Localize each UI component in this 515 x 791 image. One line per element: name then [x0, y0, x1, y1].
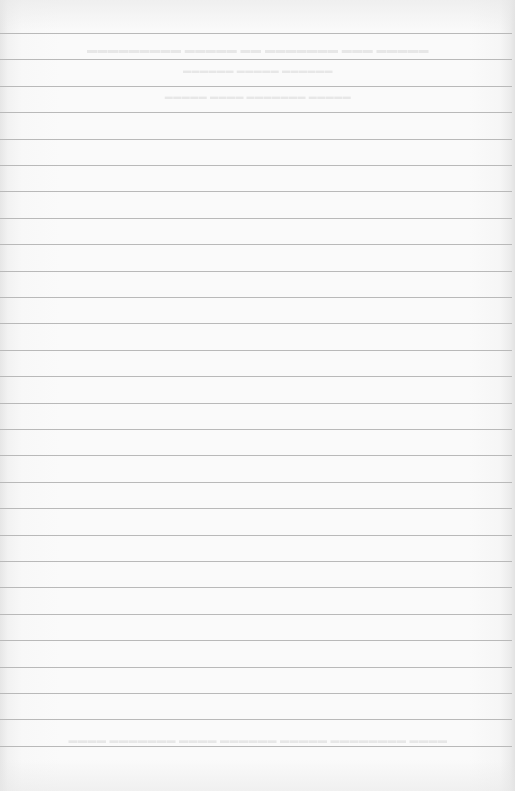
- rule-line: [0, 719, 512, 720]
- rule-line: [0, 746, 512, 747]
- rule-line: [0, 535, 512, 536]
- rule-line: [0, 455, 512, 456]
- rule-line: [0, 561, 512, 562]
- rule-line: [0, 508, 512, 509]
- rule-line: [0, 271, 512, 272]
- bleed-through-text-bottom: ▬▬▬▬ ▬▬▬▬▬▬▬▬ ▬▬▬▬▬ ▬▬▬▬▬▬ ▬▬▬▬ ▬▬▬▬▬▬▬ …: [0, 735, 515, 745]
- rule-line: [0, 403, 512, 404]
- rule-line: [0, 667, 512, 668]
- bleed-through-text-top-1: ▬▬▬▬▬ ▬▬▬ ▬▬▬▬▬▬▬ ▬▬ ▬▬▬▬▬ ▬▬▬▬▬▬▬▬▬: [0, 44, 515, 55]
- rule-line: [0, 614, 512, 615]
- bleed-through-text-top-2: ▬▬▬▬▬▬ ▬▬▬▬▬ ▬▬▬▬▬▬: [0, 66, 515, 75]
- rule-line: [0, 376, 512, 377]
- bleed-through-text-top-3: ▬▬▬▬▬ ▬▬▬▬▬▬▬ ▬▬▬▬ ▬▬▬▬▬: [0, 92, 515, 101]
- rule-line: [0, 139, 512, 140]
- notebook-page: ▬▬▬▬▬ ▬▬▬ ▬▬▬▬▬▬▬ ▬▬ ▬▬▬▬▬ ▬▬▬▬▬▬▬▬▬ ▬▬▬…: [0, 0, 515, 791]
- rule-line: [0, 587, 512, 588]
- rule-line: [0, 482, 512, 483]
- rule-line: [0, 429, 512, 430]
- rule-line: [0, 693, 512, 694]
- rule-line: [0, 244, 512, 245]
- rule-line: [0, 218, 512, 219]
- rule-line: [0, 191, 512, 192]
- rule-line: [0, 297, 512, 298]
- rule-line: [0, 640, 512, 641]
- rule-line: [0, 59, 512, 60]
- rule-line: [0, 350, 512, 351]
- rule-line: [0, 323, 512, 324]
- rule-line: [0, 86, 512, 87]
- rule-line: [0, 33, 512, 34]
- rule-line: [0, 165, 512, 166]
- rule-line: [0, 112, 512, 113]
